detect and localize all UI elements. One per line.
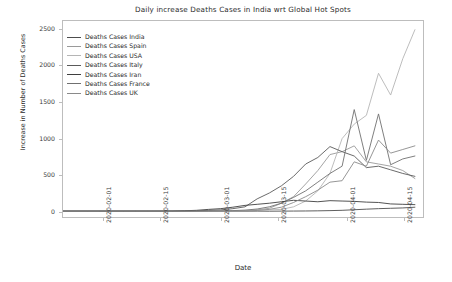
y-tick-label: 2000 [0,61,55,68]
series-line [63,146,415,211]
legend-line-icon [67,55,81,56]
y-tick-label: 500 [0,171,55,178]
x-tick-mark [160,218,161,221]
chart-figure: Daily increase Deaths Cases in India wrt… [0,0,452,282]
x-axis-label: Date [62,264,424,272]
legend-line-icon [67,37,81,38]
legend-item[interactable]: Deaths Cases USA [67,52,150,60]
series-line [63,140,415,211]
x-tick-mark [278,218,279,221]
legend-label: Deaths Cases USA [85,52,142,60]
y-tick-label: 1000 [0,135,55,142]
chart-legend: Deaths Cases IndiaDeaths Cases SpainDeat… [63,30,155,100]
series-line [63,110,415,212]
legend-item[interactable]: Deaths Cases Iran [67,71,150,79]
x-tick-mark [347,218,348,221]
legend-label: Deaths Cases UK [85,89,138,97]
y-axis-label: Increase in Number of Deaths Cases [19,17,27,167]
legend-label: Deaths Cases Italy [85,61,143,69]
y-tick-label: 0 [0,208,55,215]
y-tick-label: 1500 [0,98,55,105]
legend-label: Deaths Cases India [85,33,144,41]
legend-label: Deaths Cases Iran [85,71,141,79]
legend-label: Deaths Cases Spain [85,42,147,50]
legend-line-icon [67,74,81,75]
legend-item[interactable]: Deaths Cases India [67,33,150,41]
legend-item[interactable]: Deaths Cases France [67,80,150,88]
y-tick-label: 2500 [0,25,55,32]
x-tick-mark [103,218,104,221]
legend-label: Deaths Cases France [85,80,150,88]
x-tick-mark [404,218,405,221]
legend-item[interactable]: Deaths Cases Spain [67,42,150,50]
legend-line-icon [67,93,81,94]
chart-title: Daily increase Deaths Cases in India wrt… [62,5,424,14]
legend-line-icon [67,65,81,66]
legend-line-icon [67,46,81,47]
legend-item[interactable]: Deaths Cases UK [67,89,150,97]
x-tick-mark [221,218,222,221]
legend-item[interactable]: Deaths Cases Italy [67,61,150,69]
legend-line-icon [67,83,81,84]
